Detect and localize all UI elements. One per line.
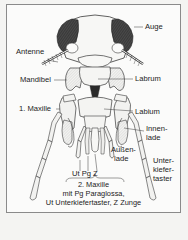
maxilla-1-right <box>114 94 131 147</box>
antenna-right <box>122 50 143 66</box>
maxilla-1-left <box>59 94 76 147</box>
clypeus <box>78 55 112 68</box>
label-auge: Auge <box>145 23 163 31</box>
label-innenlade-2: lade <box>146 134 160 142</box>
label-labium: Labium <box>135 108 160 116</box>
antenna-left <box>42 50 68 66</box>
caption-line-3: Ut Unterkiefertaster, Z Zunge <box>6 198 181 207</box>
paraglossa-right <box>100 128 105 154</box>
label-mandibel: Mandibel <box>20 76 51 84</box>
paraglossa-left <box>85 128 90 154</box>
label-antenne: Antenne <box>16 48 44 56</box>
antenna-socket-right <box>112 43 124 53</box>
labial-palp-left <box>76 126 86 158</box>
label-labrum: Labrum <box>135 75 161 83</box>
label-maxille-1: 1. Maxille <box>19 105 51 113</box>
labrum <box>80 67 111 86</box>
label-ut-pg-z: Ut Pg Z <box>72 170 98 178</box>
caption-line-2: mit Pg Paraglossa, <box>6 189 181 198</box>
antenna-socket-left <box>66 43 78 53</box>
label-aussenlade-2: lade <box>114 155 128 163</box>
labium <box>78 97 112 132</box>
glossa <box>91 128 99 152</box>
caption-line-1: 2. Maxille <box>6 180 181 189</box>
